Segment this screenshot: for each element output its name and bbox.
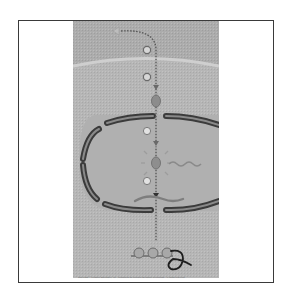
copyright-credit: Copyright © Pearson Education, Inc., pub… [78,276,218,279]
step-marker-2 [143,73,150,80]
step-marker-4 [143,177,150,184]
step-marker-1 [143,46,150,53]
diagram-panel [73,21,219,278]
step-marker-3 [143,127,150,134]
signaling-pathway-diagram [73,21,219,278]
transducer-protein [152,95,161,107]
ribosomes-translation [131,248,173,258]
